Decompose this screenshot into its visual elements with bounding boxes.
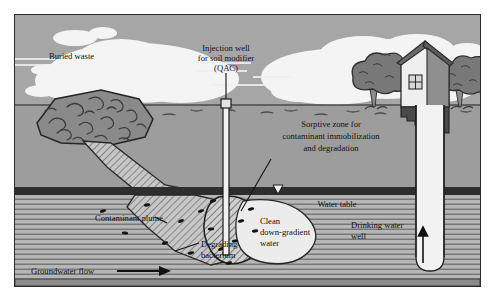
label-sorptive-zone-line2: contaminant immobilization bbox=[282, 131, 380, 141]
label-contaminant-plume: Contaminant plume bbox=[95, 213, 163, 223]
label-sorptive-zone-line3: and degradation bbox=[303, 143, 359, 153]
diagram-frame: Buried waste Injection well for soil mod… bbox=[14, 14, 481, 287]
label-sorptive-zone-line1: Sorptive zone for bbox=[301, 119, 361, 129]
label-injection-well-line2: for soil modifier bbox=[198, 53, 254, 63]
label-clean-water-line2: down-gradient bbox=[260, 227, 311, 237]
label-drinking-well-line1: Drinking water bbox=[351, 220, 403, 230]
label-groundwater-flow: Groundwater flow bbox=[31, 266, 95, 276]
label-clean-water-line1: Clean bbox=[260, 216, 281, 226]
cross-section-svg: Buried waste Injection well for soil mod… bbox=[15, 15, 480, 286]
figure-canvas: Buried waste Injection well for soil mod… bbox=[0, 0, 493, 299]
label-injection-well-line3: (QAC) bbox=[214, 63, 238, 73]
label-clean-water-line3: water bbox=[260, 238, 279, 248]
bottom-bedrock bbox=[15, 279, 480, 286]
label-buried-waste: Buried waste bbox=[49, 51, 94, 61]
label-water-table: Water table bbox=[317, 199, 356, 209]
label-degrading-bacterium-line1: Degrading bbox=[201, 239, 238, 249]
injection-well bbox=[221, 99, 231, 255]
label-drinking-well-line2: well bbox=[351, 231, 366, 241]
water-table-band bbox=[15, 187, 480, 195]
drinking-water-well bbox=[416, 105, 444, 271]
label-degrading-bacterium-line2: bacterium bbox=[201, 250, 236, 260]
label-injection-well-line1: Injection well bbox=[202, 43, 250, 53]
